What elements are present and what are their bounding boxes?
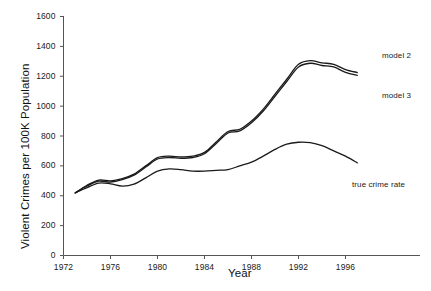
series-label-model-2: model 2 bbox=[382, 51, 411, 60]
x-tick-label: 1984 bbox=[185, 262, 225, 272]
series-label-true-crime-rate: true crime rate bbox=[352, 180, 405, 189]
x-axis-ticks bbox=[64, 256, 346, 260]
series-line-model-2 bbox=[75, 61, 357, 193]
series-label-model-3: model 3 bbox=[382, 91, 411, 100]
x-tick-label: 1996 bbox=[326, 262, 366, 272]
x-tick-label: 1980 bbox=[138, 262, 178, 272]
y-axis-ticks bbox=[60, 17, 64, 256]
y-tick-label: 1600 bbox=[0, 11, 56, 21]
y-tick-label: 1400 bbox=[0, 41, 56, 51]
y-tick-label: 0 bbox=[0, 250, 56, 260]
data-series-group bbox=[75, 61, 357, 194]
y-axis-title: Violent Crimes per 100K Population bbox=[19, 64, 31, 249]
x-tick-label: 1976 bbox=[91, 262, 131, 272]
chart-figure: 02004006008001000120014001600 1972197619… bbox=[0, 0, 431, 291]
x-tick-label: 1972 bbox=[44, 262, 84, 272]
x-axis-title: Year bbox=[228, 267, 252, 279]
line-chart-canvas bbox=[0, 0, 431, 291]
series-line-true-crime-rate bbox=[75, 142, 357, 193]
series-line-model-3 bbox=[75, 63, 357, 193]
x-tick-label: 1992 bbox=[279, 262, 319, 272]
axis-lines bbox=[64, 16, 421, 256]
